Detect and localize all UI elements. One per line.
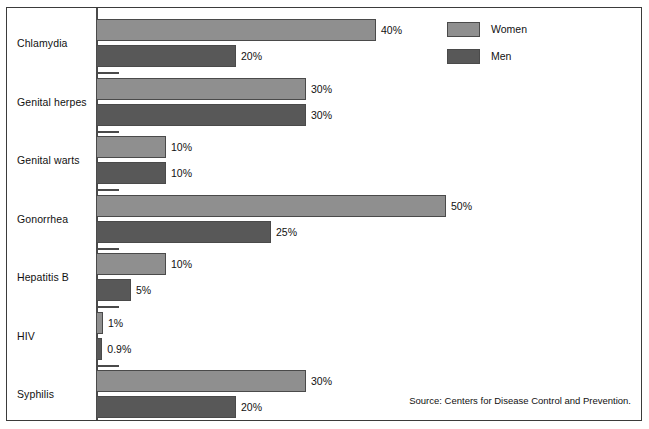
- category-label: HIV: [17, 330, 93, 342]
- legend-item-men: Men: [447, 47, 597, 69]
- bar-women: [96, 312, 103, 334]
- bar-value-label: 0.9%: [102, 343, 131, 355]
- bar-group: Genital herpes30%30%: [7, 78, 641, 126]
- bar-row: 10%: [96, 253, 641, 275]
- bar-value-label: 30%: [306, 83, 332, 95]
- bar-women: [96, 370, 306, 392]
- bar-value-label: 5%: [131, 284, 151, 296]
- bar-value-label: 25%: [271, 226, 297, 238]
- axis-tick: [98, 306, 119, 308]
- bar-men: [96, 104, 306, 126]
- bar-value-label: 50%: [446, 200, 472, 212]
- bar-women: [96, 253, 166, 275]
- axis-tick: [98, 72, 119, 74]
- legend-item-women: Women: [447, 20, 597, 42]
- category-label: Genital herpes: [17, 96, 93, 108]
- bar-row: 1%: [96, 312, 641, 334]
- legend-label-men: Men: [491, 49, 511, 64]
- bar-men: [96, 45, 236, 67]
- category-label: Syphilis: [17, 388, 93, 400]
- bar-row: 30%: [96, 370, 641, 392]
- bar-group: Syphilis30%20%: [7, 370, 641, 418]
- bar-value-label: 1%: [103, 317, 123, 329]
- bar-row: 0.9%: [96, 338, 641, 360]
- bar-men: [96, 162, 166, 184]
- bar-women: [96, 195, 446, 217]
- bar-value-label: 10%: [166, 141, 192, 153]
- bar-row: 30%: [96, 104, 641, 126]
- bar-value-label: 20%: [236, 50, 262, 62]
- bar-group: Gonorrhea50%25%: [7, 195, 641, 243]
- bar-women: [96, 136, 166, 158]
- axis-tick: [98, 248, 119, 250]
- bar-value-label: 10%: [166, 258, 192, 270]
- bar-row: 50%: [96, 195, 641, 217]
- bar-row: 10%: [96, 162, 641, 184]
- chart-legend: Women Men: [447, 20, 597, 74]
- bar-value-label: 30%: [306, 375, 332, 387]
- bar-row: 10%: [96, 136, 641, 158]
- bar-men: [96, 396, 236, 418]
- bar-value-label: 10%: [166, 167, 192, 179]
- bar-group: HIV1%0.9%: [7, 312, 641, 360]
- category-label: Hepatitis B: [17, 271, 93, 283]
- bar-value-label: 30%: [306, 109, 332, 121]
- legend-label-women: Women: [491, 22, 527, 37]
- category-label: Chlamydia: [17, 37, 93, 49]
- category-label: Genital warts: [17, 154, 93, 166]
- bar-value-label: 20%: [236, 401, 262, 413]
- bar-row: 30%: [96, 78, 641, 100]
- bar-men: [96, 279, 131, 301]
- bar-group: Hepatitis B10%5%: [7, 253, 641, 301]
- axis-tick: [98, 189, 119, 191]
- source-note: Source: Centers for Disease Control and …: [409, 395, 631, 406]
- bar-value-label: 40%: [376, 24, 402, 36]
- legend-swatch-men-icon: [447, 49, 480, 64]
- bar-women: [96, 19, 376, 41]
- legend-swatch-women-icon: [447, 22, 480, 37]
- bar-women: [96, 78, 306, 100]
- bar-group: Genital warts10%10%: [7, 136, 641, 184]
- bar-row: 25%: [96, 221, 641, 243]
- axis-tick: [98, 131, 119, 133]
- category-label: Gonorrhea: [17, 213, 93, 225]
- bar-row: 5%: [96, 279, 641, 301]
- bar-men: [96, 221, 271, 243]
- chart-frame: Chlamydia40%20%Genital herpes30%30%Genit…: [6, 7, 642, 421]
- axis-tick: [98, 365, 119, 367]
